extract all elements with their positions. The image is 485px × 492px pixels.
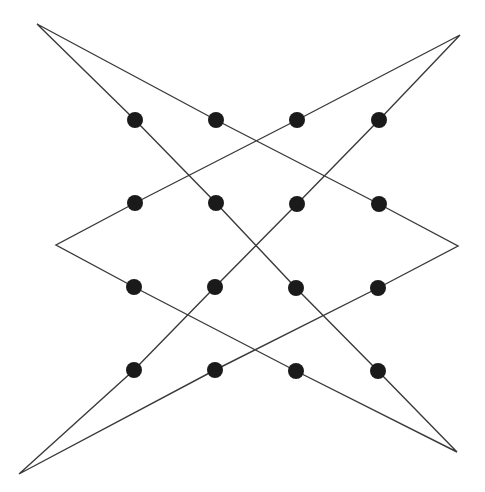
grid-dot: [207, 362, 223, 378]
grid-dot: [289, 112, 305, 128]
grid-dot: [208, 112, 224, 128]
connecting-polyline: [19, 24, 460, 474]
grid-dot: [289, 196, 305, 212]
dot-grid-diagram: [0, 0, 485, 492]
grid-dot: [371, 196, 387, 212]
grid-dot: [371, 112, 387, 128]
grid-dot: [370, 280, 386, 296]
grid-dot: [208, 195, 224, 211]
grid-dot: [288, 363, 304, 379]
grid-dot: [126, 362, 142, 378]
grid-dot: [207, 279, 223, 295]
grid-dot: [126, 279, 142, 295]
grid-dot: [288, 280, 304, 296]
grid-dot: [127, 195, 143, 211]
grid-dot: [370, 363, 386, 379]
grid-dot: [127, 112, 143, 128]
